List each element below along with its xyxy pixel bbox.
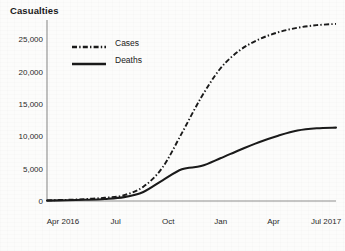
x-tick-label: Jul 2017 bbox=[311, 217, 341, 226]
legend-swatch-deaths bbox=[72, 55, 106, 65]
legend-item-deaths: Deaths bbox=[72, 51, 142, 68]
x-tick-label: Jan bbox=[214, 217, 227, 226]
chart-figure: Casualties 05,00010,00015,00020,00025,00… bbox=[0, 0, 345, 251]
x-tick-label: Apr 2016 bbox=[47, 217, 79, 226]
chart-legend: Cases Deaths bbox=[72, 34, 142, 68]
x-tick-label: Apr bbox=[267, 217, 279, 226]
legend-label-deaths: Deaths bbox=[115, 55, 142, 65]
x-tick-label: Jul bbox=[110, 217, 120, 226]
legend-label-cases: Cases bbox=[115, 38, 139, 48]
x-tick-label: Oct bbox=[162, 217, 174, 226]
x-axis-tick-labels: Apr 2016JulOctJanAprJul 2017 bbox=[0, 0, 345, 251]
legend-swatch-cases bbox=[72, 38, 106, 48]
legend-item-cases: Cases bbox=[72, 34, 142, 51]
